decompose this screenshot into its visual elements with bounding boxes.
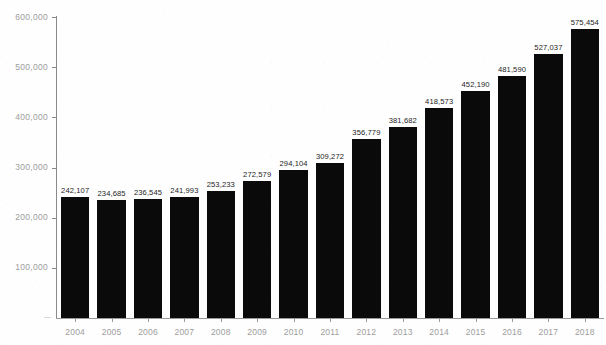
x-axis-tick-mark	[257, 318, 258, 322]
x-axis-tick-label: 2016	[494, 327, 530, 337]
y-axis-tick-mark	[52, 17, 57, 18]
bar[interactable]	[61, 197, 89, 318]
x-axis-tick-label: 2014	[421, 327, 457, 337]
x-axis-tick-mark	[548, 318, 549, 322]
x-axis-tick-label: 2004	[57, 327, 93, 337]
x-axis-tick-label: 2005	[93, 327, 129, 337]
y-axis-tick-label: 400,000	[0, 112, 48, 122]
bar-value-label: 236,545	[128, 188, 168, 197]
x-axis-tick-label: 2012	[348, 327, 384, 337]
x-axis-tick-label: 2013	[385, 327, 421, 337]
bar[interactable]	[316, 163, 344, 318]
x-axis-tick-label: 2006	[130, 327, 166, 337]
bar-value-label: 527,037	[528, 43, 568, 52]
bar[interactable]	[243, 181, 271, 318]
bar-chart: 100,000200,000300,000400,000500,000600,0…	[0, 0, 606, 345]
bar-value-label: 253,233	[201, 180, 241, 189]
y-axis-tick-mark	[52, 268, 57, 269]
x-axis-tick-label: 2009	[239, 327, 275, 337]
y-axis-tick-mark	[52, 117, 57, 118]
bar-value-label: 272,579	[237, 170, 277, 179]
bar-value-label: 575,454	[565, 18, 605, 27]
y-axis-tick-mark	[52, 168, 57, 169]
x-axis-tick-mark	[184, 318, 185, 322]
x-axis-tick-label: 2007	[166, 327, 202, 337]
bar-value-label: 381,682	[383, 116, 423, 125]
y-axis-tick-label: 200,000	[0, 212, 48, 222]
y-axis-tick-label: 100,000	[0, 262, 48, 272]
bar-value-label: 234,685	[91, 189, 131, 198]
bar[interactable]	[279, 170, 307, 318]
x-axis-tick-mark	[585, 318, 586, 322]
bar[interactable]	[207, 191, 235, 318]
bar-value-label: 481,590	[492, 65, 532, 74]
x-axis-tick-label: 2018	[567, 327, 603, 337]
y-axis-zero-tick	[44, 317, 51, 318]
y-axis-tick-mark	[52, 218, 57, 219]
x-axis-tick-label: 2010	[275, 327, 311, 337]
bar[interactable]	[425, 108, 453, 318]
y-axis-tick-mark	[52, 67, 57, 68]
bar-value-label: 452,190	[455, 80, 495, 89]
bar[interactable]	[134, 199, 162, 318]
x-axis-tick-mark	[476, 318, 477, 322]
y-axis-tick-label: 300,000	[0, 162, 48, 172]
plot-area	[57, 17, 603, 318]
x-axis-tick-label: 2011	[312, 327, 348, 337]
x-axis-tick-mark	[366, 318, 367, 322]
y-axis-tick-label: 600,000	[0, 12, 48, 22]
x-axis-tick-mark	[294, 318, 295, 322]
x-axis-tick-mark	[112, 318, 113, 322]
bar[interactable]	[571, 29, 599, 318]
bar[interactable]	[389, 127, 417, 318]
bar-value-label: 309,272	[310, 152, 350, 161]
bar-value-label: 356,779	[346, 128, 386, 137]
bar[interactable]	[461, 91, 489, 318]
x-axis-tick-mark	[148, 318, 149, 322]
bar[interactable]	[498, 76, 526, 318]
bar[interactable]	[534, 54, 562, 318]
x-axis-tick-mark	[512, 318, 513, 322]
x-axis-tick-mark	[403, 318, 404, 322]
x-axis-tick-mark	[75, 318, 76, 322]
x-axis-tick-mark	[439, 318, 440, 322]
x-axis-tick-label: 2008	[203, 327, 239, 337]
bar-value-label: 242,107	[55, 186, 95, 195]
bar[interactable]	[170, 197, 198, 318]
x-axis-tick-mark	[221, 318, 222, 322]
bar[interactable]	[97, 200, 125, 318]
x-axis-tick-mark	[330, 318, 331, 322]
x-axis-tick-label: 2015	[457, 327, 493, 337]
bar-value-label: 294,104	[273, 159, 313, 168]
x-axis-tick-label: 2017	[530, 327, 566, 337]
y-axis-tick-label: 500,000	[0, 62, 48, 72]
bar-value-label: 418,573	[419, 97, 459, 106]
bar[interactable]	[352, 139, 380, 318]
bar-value-label: 241,993	[164, 186, 204, 195]
